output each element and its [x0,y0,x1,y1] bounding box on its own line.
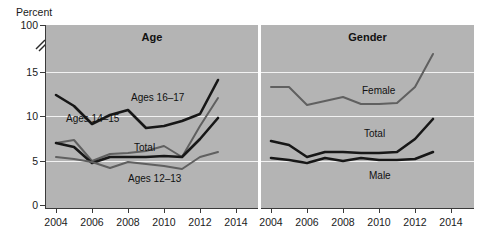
x-tickmark-left-2014 [236,208,237,213]
x-tickmark-right-2008 [343,208,344,213]
x-tickmark-left-2010 [164,208,165,213]
x-tick-left-2006: 2006 [72,216,112,228]
x-tickmark-right-2006 [307,208,308,213]
x-tick-left-2012: 2012 [180,216,220,228]
series-label-total-age: Total [134,142,155,153]
x-tickmark-right-2012 [415,208,416,213]
x-tickmark-left-2004 [56,208,57,213]
x-tick-right-2010: 2010 [359,216,399,228]
y-tick-0: 0 [4,199,38,211]
x-tick-right-2004: 2004 [251,216,291,228]
x-tickmark-left-2006 [92,208,93,213]
panel-gender-series [261,25,474,208]
chart-figure: Percent 100 15 10 5 0 Age Ag [0,0,499,241]
series-label-ages-12-13: Ages 12–13 [128,173,181,184]
x-tickmark-right-2010 [379,208,380,213]
panel-title-age: Age [46,31,258,43]
x-tickmark-right-2014 [451,208,452,213]
x-tick-left-2004: 2004 [36,216,76,228]
y-tick-100: 100 [4,19,38,31]
x-tick-left-2014: 2014 [216,216,256,228]
line-ages-12-13 [56,152,218,169]
x-tickmark-left-2008 [128,208,129,213]
x-axis-line-right [261,208,474,209]
line-total-gender [271,119,433,157]
x-tickmark-left-2012 [200,208,201,213]
series-label-female: Female [362,85,395,96]
y-tick-15: 15 [4,66,38,78]
series-label-total-gender: Total [364,128,385,139]
x-axis-line-left [45,208,258,209]
x-tick-left-2008: 2008 [108,216,148,228]
panel-title-gender: Gender [261,31,474,43]
x-tick-right-2008: 2008 [323,216,363,228]
line-total-age [56,118,218,163]
x-tick-right-2006: 2006 [287,216,327,228]
y-tick-10: 10 [4,110,38,122]
series-label-ages-16-17: Ages 16–17 [131,92,184,103]
panel-gender-plot-area [261,25,474,208]
series-label-male: Male [369,170,391,181]
y-tick-5: 5 [4,155,38,167]
x-tickmark-right-2004 [271,208,272,213]
y-axis-title: Percent [16,6,52,18]
series-label-ages-14-15: Ages 14–15 [66,113,119,124]
line-female [271,54,433,105]
x-tick-left-2010: 2010 [144,216,184,228]
x-tick-right-2012: 2012 [395,216,435,228]
x-tick-right-2014: 2014 [431,216,471,228]
